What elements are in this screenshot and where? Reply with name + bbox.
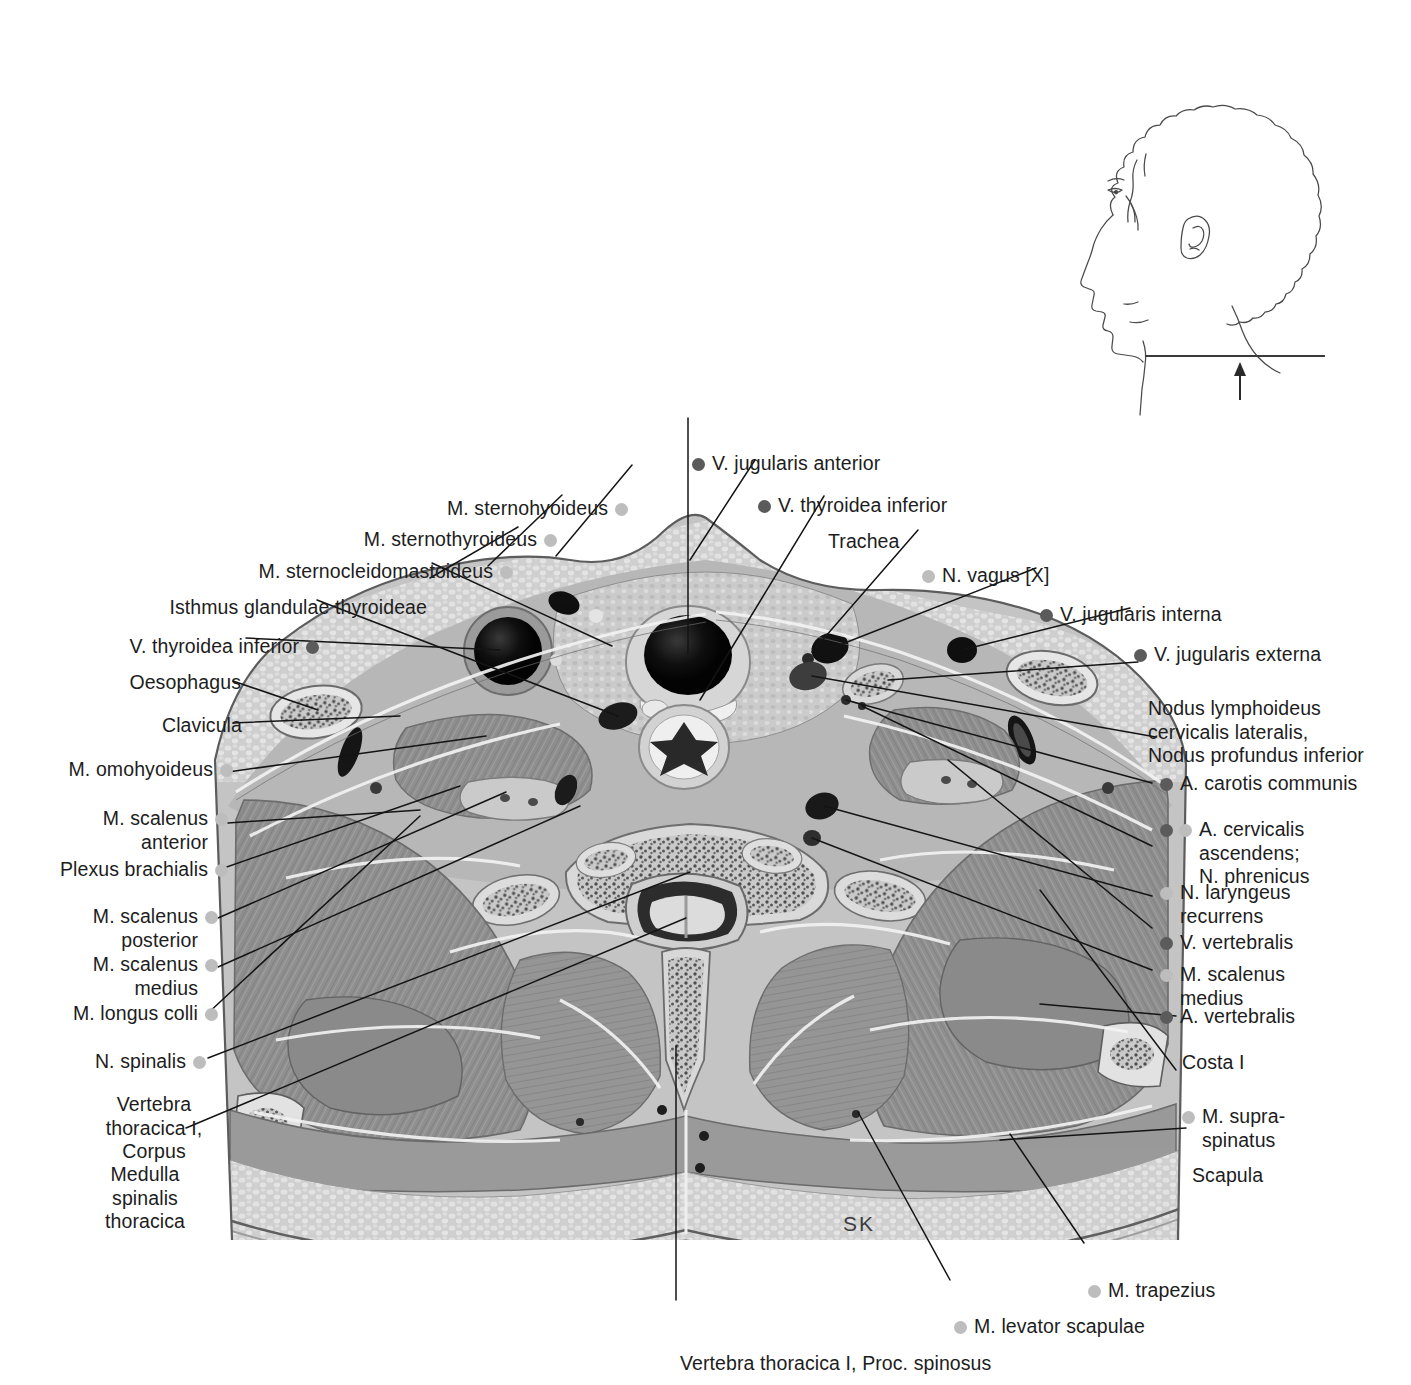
nerve-muscle-dot-icon (615, 503, 628, 516)
nerve-muscle-dot-icon (500, 566, 513, 579)
figure-canvas: V. jugularis anterior V. thyroidea infer… (0, 0, 1411, 1385)
label-medulla-spinalis-thoracica: Medulla spinalis thoracica (95, 1116, 195, 1281)
label-n-vagus: N. vagus [X] (922, 517, 1049, 635)
vessel-dot-icon (692, 458, 705, 471)
vessel-dot-icon (758, 500, 771, 513)
orientation-marker-sk: SK (843, 1212, 875, 1236)
nerve-muscle-dot-icon (922, 570, 935, 583)
vessel-dot-icon (306, 641, 319, 654)
label-trachea: Trachea (828, 483, 900, 601)
vessel-dot-icon (1134, 649, 1147, 662)
vessel-dot-icon (1160, 1011, 1173, 1024)
vessel-dot-icon (1040, 609, 1053, 622)
label-vertebra-thoracica-i-proc-spinosus: Vertebra thoracica I, Proc. spinosus (680, 1305, 991, 1385)
nerve-muscle-dot-icon (205, 1008, 218, 1021)
nerve-muscle-dot-icon (544, 534, 557, 547)
label-scapula: Scapula (1192, 1117, 1263, 1235)
